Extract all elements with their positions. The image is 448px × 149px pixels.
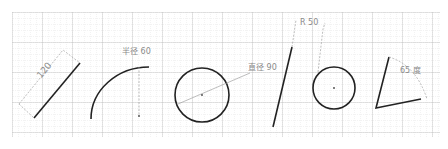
dimension-label-radius-60: 半径 60	[122, 48, 151, 56]
grid	[12, 12, 440, 137]
dimension-label-r-50: R 50	[300, 19, 318, 27]
dimension-label-65-degrees: 65 度	[400, 67, 421, 75]
dimension-label-diameter-90: 直径 90	[248, 64, 277, 72]
drawing-canvas	[0, 0, 448, 149]
